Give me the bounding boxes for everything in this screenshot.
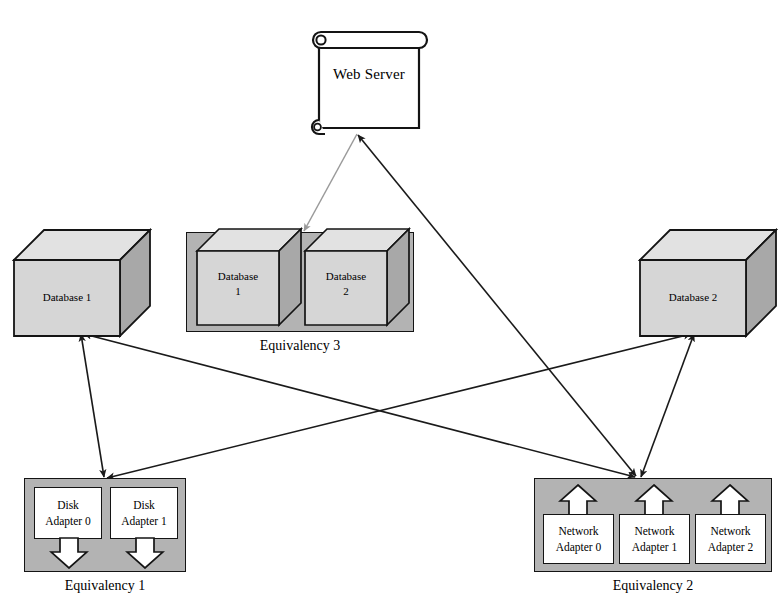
equivalency-2-panel[interactable]: Network Adapter 0 Network Adapter 1 Netw… xyxy=(534,478,772,572)
cube-icon xyxy=(12,228,152,338)
edge-webserver-to-equivalency3 xyxy=(304,134,357,231)
edge-database1-to-equivalency1 xyxy=(81,334,104,477)
database-2-label: Database 2 xyxy=(640,290,746,305)
database-1-label: Database 1 xyxy=(14,290,120,305)
edge-database2-to-equivalency2 xyxy=(641,334,694,477)
equivalency-3-member-1[interactable]: Database 2 xyxy=(303,227,411,327)
equivalency-1-panel[interactable]: Disk Adapter 0 Disk Adapter 1 xyxy=(24,478,186,572)
equivalency-1-caption: Equivalency 1 xyxy=(24,578,186,594)
database-1-node[interactable]: Database 1 xyxy=(12,228,152,338)
equivalency-2-member-0-line2: Adapter 0 xyxy=(556,540,602,554)
web-server-label: Web Server xyxy=(309,66,429,83)
equivalency-2-member-0-line1: Network xyxy=(558,524,598,538)
web-server-node[interactable]: Web Server xyxy=(309,28,429,136)
equivalency-2-member-1[interactable]: Network Adapter 1 xyxy=(619,514,690,564)
equivalency-1-member-1-down-arrow-icon xyxy=(125,537,165,569)
equivalency-3-panel[interactable]: Database 1 Database 2 xyxy=(186,232,414,332)
database-2-node[interactable]: Database 2 xyxy=(638,228,778,338)
equivalency-2-member-2-up-arrow-icon xyxy=(710,484,750,516)
equivalency-1-member-0[interactable]: Disk Adapter 0 xyxy=(34,487,102,539)
equivalency-1-member-0-line1: Disk xyxy=(57,498,79,512)
equivalency-1-member-1[interactable]: Disk Adapter 1 xyxy=(110,487,178,539)
equivalency-2-member-2-line1: Network xyxy=(710,524,750,538)
equivalency-2-member-1-line1: Network xyxy=(634,524,674,538)
equivalency-2-member-2-line2: Adapter 2 xyxy=(708,540,754,554)
cube-icon xyxy=(638,228,778,338)
equivalency-2-member-1-line2: Adapter 1 xyxy=(632,540,678,554)
equivalency-3-caption: Equivalency 3 xyxy=(186,338,414,354)
equivalency-2-member-1-up-arrow-icon xyxy=(634,484,674,516)
equivalency-3-member-0[interactable]: Database 1 xyxy=(195,227,303,327)
equivalency-3-member-1-label: Database 2 xyxy=(305,269,387,299)
edge-database1-to-equivalency2 xyxy=(84,334,635,477)
equivalency-1-member-1-line2: Adapter 1 xyxy=(121,514,167,528)
diagram-canvas: Web Server Database 1 Database 2 Databas… xyxy=(0,0,783,616)
equivalency-2-member-2[interactable]: Network Adapter 2 xyxy=(695,514,766,564)
equivalency-2-member-0[interactable]: Network Adapter 0 xyxy=(543,514,614,564)
edge-database2-to-equivalency1 xyxy=(107,334,691,478)
equivalency-2-member-0-up-arrow-icon xyxy=(558,484,598,516)
equivalency-1-member-0-line2: Adapter 0 xyxy=(45,514,91,528)
equivalency-2-caption: Equivalency 2 xyxy=(534,578,772,594)
equivalency-1-member-0-down-arrow-icon xyxy=(49,537,89,569)
equivalency-3-member-0-label: Database 1 xyxy=(197,269,279,299)
equivalency-1-member-1-line1: Disk xyxy=(133,498,155,512)
